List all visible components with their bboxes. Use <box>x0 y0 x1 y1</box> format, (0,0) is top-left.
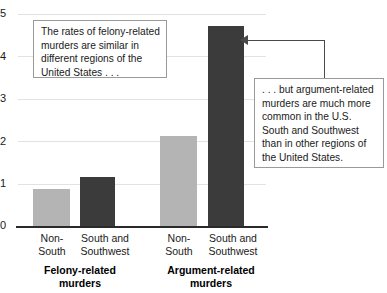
bar-felony-south-southwest[interactable] <box>80 177 115 226</box>
leader-line-vertical <box>324 40 325 78</box>
xlabel-line2: South <box>165 245 192 257</box>
xlabel-line2: South <box>38 245 65 257</box>
xlabel-line2: Southwest <box>80 245 129 257</box>
xlabel-felony-south-southwest: South and Southwest <box>72 232 138 257</box>
plot-area: 5 4 3 2 1 0 Non- South South and Southwe… <box>0 0 387 293</box>
bar-chart: 5 4 3 2 1 0 Non- South South and Southwe… <box>0 0 387 293</box>
group-label-line2: murders <box>190 277 232 289</box>
group-label-argument: Argument-related murders <box>144 264 278 289</box>
bar-felony-non-south[interactable] <box>33 189 70 226</box>
xlabel-line2: Southwest <box>208 245 257 257</box>
x-axis-line <box>16 226 268 228</box>
leader-line-horizontal <box>247 40 325 41</box>
group-label-line2: murders <box>59 277 101 289</box>
leader-arrow-icon <box>240 35 248 45</box>
ytick-label-0: 0 <box>0 220 14 231</box>
group-label-line1: Argument-related <box>167 264 255 276</box>
group-label-felony: Felony-related murders <box>20 264 140 289</box>
bar-argument-south-southwest[interactable] <box>208 26 244 226</box>
gridline-5 <box>18 14 266 15</box>
xlabel-argument-south-southwest: South and Southwest <box>200 232 266 257</box>
group-label-line1: Felony-related <box>44 264 116 276</box>
bar-argument-non-south[interactable] <box>160 136 197 226</box>
ytick-label-3: 3 <box>0 93 14 104</box>
xlabel-line1: South and <box>81 232 129 244</box>
ytick-label-2: 2 <box>0 136 14 147</box>
ytick-label-1: 1 <box>0 178 14 189</box>
xlabel-line1: South and <box>209 232 257 244</box>
xlabel-argument-non-south: Non- South <box>151 232 207 257</box>
ytick-label-4: 4 <box>0 51 14 62</box>
ytick-label-5: 5 <box>0 8 14 19</box>
xlabel-line1: Non- <box>41 232 64 244</box>
callout-felony-note: The rates of felony-related murders are … <box>33 20 167 78</box>
callout-argument-note: . . . but argument-related murders are m… <box>254 78 384 168</box>
xlabel-line1: Non- <box>168 232 191 244</box>
